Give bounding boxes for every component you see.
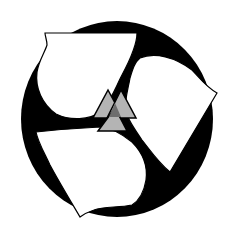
emblem [0, 0, 238, 234]
emblem-graphic [0, 0, 238, 234]
